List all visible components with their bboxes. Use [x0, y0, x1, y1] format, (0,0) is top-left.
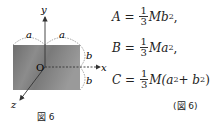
equation-reference: (図 6): [173, 99, 198, 112]
x-axis-label: x: [101, 62, 107, 73]
fraction: 13: [139, 6, 147, 27]
z-axis-label: z: [10, 99, 17, 110]
equation-c: C = 13 M(a2 + b2): [112, 69, 210, 90]
origin-label: O: [36, 62, 44, 73]
dimension-arc-b-bottom: [80, 67, 85, 90]
fraction: 13: [140, 37, 148, 58]
plate-rectangle: [13, 45, 80, 90]
figure-caption: 図 6: [37, 110, 55, 123]
label-b-bottom: b: [86, 75, 92, 86]
label-b-top: b: [86, 50, 92, 61]
dimension-arc-b-top: [80, 45, 85, 67]
equation-b: B = 13 Ma2,: [112, 37, 177, 58]
label-a-left: a: [26, 29, 32, 40]
fraction: 13: [140, 69, 148, 90]
y-axis-label: y: [40, 4, 47, 15]
label-a-right: a: [59, 29, 65, 40]
equation-a: A = 13 Mb2,: [112, 6, 178, 27]
plate-figure: y x z O a a b b: [0, 0, 110, 131]
